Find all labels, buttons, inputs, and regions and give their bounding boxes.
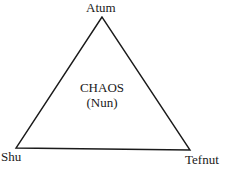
vertex-label-bottom-right: Tefnut bbox=[185, 153, 219, 167]
center-label-line1: CHAOS bbox=[64, 80, 140, 95]
vertex-label-top: Atum bbox=[86, 1, 116, 15]
center-label: CHAOS (Nun) bbox=[64, 80, 140, 110]
center-label-line2: (Nun) bbox=[64, 95, 140, 110]
vertex-label-bottom-left: Shu bbox=[1, 150, 21, 164]
